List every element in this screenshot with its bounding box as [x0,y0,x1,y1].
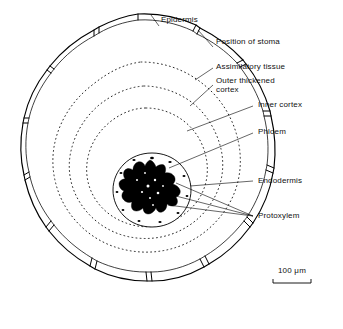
label-endodermis: Endodermis [258,176,302,185]
label-outer-thickened-cortex-line1: Outer thickened [216,76,275,85]
leader-outer-thickened-cortex [190,85,213,106]
cross-section-figure: Epidermis Position of stoma Assimilatory… [0,0,343,329]
scale-bar-rule [273,279,311,283]
leader-position-of-stoma [198,30,213,47]
label-assimilatory-tissue: Assimilatory tissue [216,62,285,71]
scale-bar: 100 μm [271,266,313,275]
label-protoxylem: Protoxylem [258,211,300,220]
leader-assimilatory-tissue [195,68,213,80]
leader-endodermis [190,181,253,186]
leader-phloem [169,133,253,168]
scale-bar-label: 100 μm [271,266,313,275]
epidermis-inner-wall [26,20,268,272]
leader-inner-cortex [187,106,253,131]
epidermis-outline [21,14,275,281]
label-position-of-stoma: Position of stoma [216,37,280,46]
cross-section-drawing [0,0,343,329]
label-phloem: Phloem [258,127,286,136]
label-outer-thickened-cortex-line2: cortex [216,85,239,94]
label-epidermis: Epidermis [161,15,198,24]
label-inner-cortex: Inner cortex [258,100,302,109]
